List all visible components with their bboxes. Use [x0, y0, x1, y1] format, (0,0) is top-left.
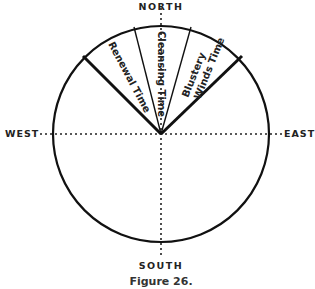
- west-label: WEST: [5, 128, 39, 139]
- south-label: SOUTH: [139, 260, 184, 271]
- segment-cleansing: Cleansing Time: [156, 31, 167, 117]
- compass-diagram: NORTH SOUTH WEST EAST Renewal Time Clean…: [0, 0, 315, 289]
- north-label: NORTH: [139, 1, 184, 12]
- figure-caption: Figure 26.: [129, 275, 192, 288]
- east-label: EAST: [284, 128, 315, 139]
